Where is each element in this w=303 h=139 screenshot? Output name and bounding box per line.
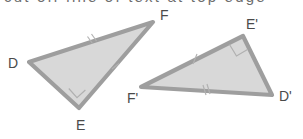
vertex-label-f: F (160, 7, 169, 23)
vertex-label-e-prime: E' (246, 16, 258, 32)
vertex-label-d-prime: D' (279, 88, 292, 104)
vertex-label-f-prime: F' (127, 90, 138, 106)
vertex-label-e: E (76, 117, 85, 133)
triangle-def: D E F (8, 7, 169, 133)
vertex-label-d: D (8, 55, 18, 71)
geometry-figure: cut off line of text at top edge D E F (0, 0, 303, 139)
triangle-def-prime: F' E' D' (127, 16, 292, 106)
figure-canvas: D E F F' E' D' (0, 0, 303, 139)
